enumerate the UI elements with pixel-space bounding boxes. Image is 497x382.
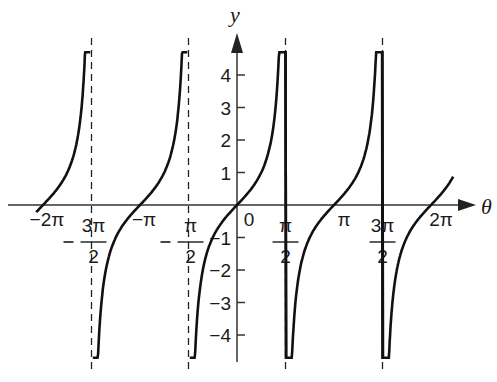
x-tick-label-denominator: 2 [88, 246, 99, 267]
axes: θ y [8, 2, 492, 362]
y-tick-label: 4 [220, 65, 231, 86]
x-tick-label-denominator: 2 [185, 246, 196, 267]
origin-label: 0 [244, 209, 255, 230]
y-tick-label: −4 [209, 325, 231, 346]
x-tick-label: −2π [30, 209, 65, 230]
y-tick-label: 1 [220, 163, 231, 184]
y-tick-label: −2 [209, 260, 231, 281]
y-axis-label: y [228, 2, 240, 27]
y-tick-label: 3 [220, 98, 231, 119]
y-tick-label: −3 [209, 293, 231, 314]
tangent-branch [36, 52, 90, 212]
x-tick-label: −π [132, 209, 156, 230]
x-axis-arrow-icon [458, 199, 476, 211]
tangent-chart: θ y −4−3−2−11234 −2π3π2−ππ20π2π3π22π [0, 0, 497, 382]
x-tick-label-numerator: 3π [82, 215, 106, 236]
x-tick-label: π [337, 209, 350, 230]
y-axis-arrow-icon [231, 33, 243, 53]
x-axis-label: θ [481, 194, 492, 219]
x-tick-label: 2π [429, 209, 453, 230]
y-tick-label: 2 [220, 130, 231, 151]
x-tick-label-numerator: π [184, 215, 197, 236]
